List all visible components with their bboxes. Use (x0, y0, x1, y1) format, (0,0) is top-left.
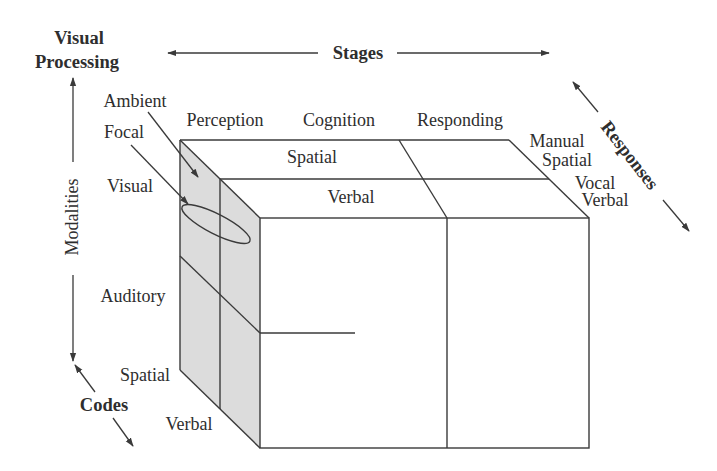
responses-arrow-up (573, 82, 598, 112)
codes-axis-label: Codes (80, 395, 128, 415)
top-code-verbal-label: Verbal (328, 187, 375, 207)
response-verbal-label: Verbal (582, 190, 629, 210)
title-line-2: Processing (35, 52, 120, 72)
modality-visual-label: Visual (107, 176, 153, 196)
side-code-verbal-label: Verbal (166, 414, 213, 434)
stage-cognition-label: Cognition (303, 110, 375, 130)
stage-responding-label: Responding (417, 110, 503, 130)
modality-auditory-label: Auditory (101, 286, 166, 306)
title-line-1: Visual (54, 28, 104, 48)
multiple-resource-model-diagram: Visual Processing Stages Modalities Resp… (0, 0, 717, 471)
cube (178, 140, 589, 448)
codes-arrow-up (75, 365, 95, 392)
modalities-axis-label: Modalities (62, 179, 82, 256)
ambient-label: Ambient (104, 91, 167, 111)
response-manual-label: Manual (530, 131, 585, 151)
stages-axis-label: Stages (333, 43, 383, 63)
side-code-spatial-label: Spatial (120, 365, 170, 385)
stage-perception-label: Perception (187, 110, 264, 130)
codes-arrow-down (113, 418, 133, 446)
focal-label: Focal (104, 122, 144, 142)
responses-arrow-down (663, 200, 689, 231)
response-spatial-label: Spatial (542, 150, 592, 170)
labels: Visual Processing Stages Modalities Resp… (35, 28, 663, 434)
top-code-spatial-label: Spatial (287, 147, 337, 167)
arrows (73, 53, 689, 446)
